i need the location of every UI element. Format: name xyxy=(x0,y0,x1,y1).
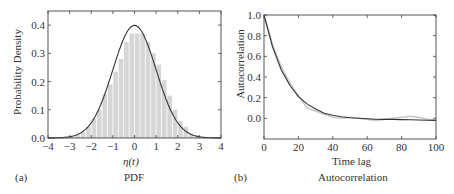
autocorrelation-x-axis-label: Time lag xyxy=(332,155,371,167)
y-tick-label: 0.0 xyxy=(31,132,45,144)
histogram-bar xyxy=(102,94,107,138)
y-tick-label: 1.0 xyxy=(247,9,261,21)
series-line xyxy=(264,15,436,120)
y-tick-label: 0.8 xyxy=(247,30,261,42)
x-tick-label: 4 xyxy=(218,140,224,152)
autocorrelation-panel: 0204060801000.00.20.40.60.81.0 Autocorre… xyxy=(230,0,454,194)
x-tick-label: −3 xyxy=(64,140,76,152)
histogram-bar xyxy=(97,110,102,138)
x-tick-label: −1 xyxy=(107,140,119,152)
pdf-panel: −4−3−2−1012340.00.10.20.30.4 Probability… xyxy=(0,0,230,194)
pdf-histogram-chart: −4−3−2−1012340.00.10.20.30.4 xyxy=(0,0,230,194)
x-tick-label: 20 xyxy=(293,141,305,153)
x-tick-label: 100 xyxy=(428,141,445,153)
y-tick-label: 0.4 xyxy=(247,71,261,83)
histogram-bar xyxy=(81,132,86,138)
histogram-bar xyxy=(124,42,129,138)
histogram-bar xyxy=(135,34,140,138)
autocorrelation-panel-tag: (b) xyxy=(234,171,247,183)
x-tick-label: 2 xyxy=(175,140,181,152)
series-line xyxy=(48,25,221,138)
histogram-bar xyxy=(167,96,172,138)
histogram-bar xyxy=(113,72,118,138)
y-tick-label: 0.3 xyxy=(31,47,45,59)
y-tick-label: 0.2 xyxy=(247,92,261,104)
y-tick-label: 0.4 xyxy=(31,19,45,31)
y-tick-label: 0.0 xyxy=(247,112,261,124)
histogram-bar xyxy=(108,84,113,138)
histogram-bar xyxy=(129,34,134,138)
y-tick-label: 0.1 xyxy=(31,104,45,116)
y-tick-label: 0.6 xyxy=(247,50,261,62)
autocorrelation-panel-caption: Autocorrelation xyxy=(318,171,388,183)
x-tick-label: 3 xyxy=(197,140,203,152)
pdf-panel-caption: PDF xyxy=(124,171,144,183)
histogram-bar xyxy=(173,110,178,138)
autocorrelation-y-axis-label: Autocorrelation xyxy=(234,14,246,114)
x-tick-label: 80 xyxy=(396,141,408,153)
x-tick-label: 0 xyxy=(261,141,267,153)
x-tick-label: 1 xyxy=(153,140,159,152)
plot-frame xyxy=(48,11,221,138)
pdf-y-axis-label: Probability Density xyxy=(11,17,23,127)
x-tick-label: 0 xyxy=(132,140,138,152)
y-tick-label: 0.2 xyxy=(31,76,45,88)
series-line xyxy=(264,15,436,120)
x-tick-label: 60 xyxy=(362,141,374,153)
x-tick-label: 40 xyxy=(327,141,339,153)
pdf-panel-tag: (a) xyxy=(15,171,27,183)
histogram-bar xyxy=(146,42,151,138)
x-tick-label: −2 xyxy=(85,140,97,152)
histogram-bar xyxy=(157,65,162,138)
pdf-x-axis-label: η(t) xyxy=(123,155,139,167)
histogram-bar xyxy=(119,59,124,138)
plot-frame xyxy=(264,15,436,139)
histogram-bar xyxy=(140,34,145,138)
